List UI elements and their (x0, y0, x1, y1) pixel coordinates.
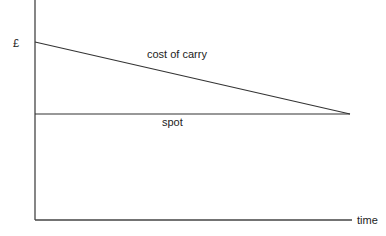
y-axis-label: £ (13, 37, 19, 49)
spot-label: spot (162, 116, 183, 128)
cost-of-carry-label: cost of carry (147, 48, 207, 60)
chart-canvas: £ time cost of carry spot (0, 0, 386, 236)
x-axis-label: time (357, 214, 378, 226)
